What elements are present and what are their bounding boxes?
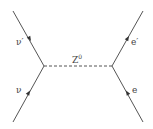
arrow-icon	[125, 35, 131, 41]
label-nu-prime: ν′	[16, 38, 24, 47]
label-nu: ν	[16, 86, 21, 95]
z-label-superscript: 0	[78, 53, 82, 60]
label-z-boson: Z0	[72, 54, 82, 65]
feynman-diagram: ν′ ν e′ e Z0	[0, 0, 153, 129]
label-e-prime: e′	[131, 38, 138, 47]
label-e: e	[132, 86, 137, 95]
